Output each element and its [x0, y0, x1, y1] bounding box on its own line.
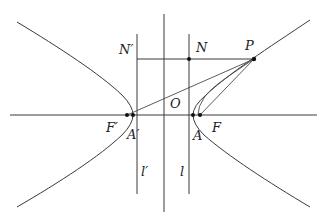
point-f [198, 113, 202, 117]
label-f-prime: F′ [105, 120, 118, 135]
label-o: O [170, 96, 181, 111]
label-f: F [211, 120, 222, 135]
label-n: N [195, 40, 208, 55]
segment-p-f-prime [127, 59, 254, 115]
point-a [191, 113, 195, 117]
point-p [252, 57, 256, 61]
segment-p-f [200, 59, 254, 115]
hyperbola-diagram: N′ N P O F′ A′ A F l′ l [0, 0, 321, 219]
label-n-prime: N′ [118, 42, 133, 57]
point-f-prime [125, 113, 129, 117]
label-l: l [180, 164, 184, 179]
label-p: P [244, 38, 254, 53]
point-a-prime [131, 113, 135, 117]
label-a-prime: A′ [126, 127, 139, 142]
label-l-prime: l′ [141, 164, 148, 179]
point-n [187, 57, 191, 61]
label-a: A [192, 128, 202, 143]
